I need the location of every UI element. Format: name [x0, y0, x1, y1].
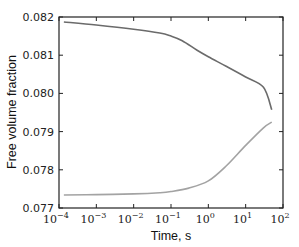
- x-tick-label: 102: [270, 211, 289, 226]
- x-tick-label: 10−2: [118, 211, 144, 226]
- y-tick-labels: 0.0770.0780.0790.0800.0810.082: [23, 11, 55, 215]
- ticks: [59, 17, 283, 208]
- x-tick-label: 100: [196, 211, 215, 226]
- y-tick-label: 0.081: [23, 49, 55, 62]
- series-line-upper: [64, 22, 272, 110]
- plot-area: [64, 22, 272, 195]
- y-tick-label: 0.082: [23, 11, 55, 24]
- x-tick-labels: 10−410−310−210−1100101102: [43, 211, 289, 226]
- series-line-lower: [64, 122, 272, 195]
- x-tick-label: 10−1: [155, 211, 181, 226]
- y-tick-label: 0.078: [23, 164, 55, 177]
- x-tick-label: 10−3: [80, 211, 106, 226]
- chart: 10−410−310−210−1100101102 0.0770.0780.07…: [0, 0, 299, 247]
- y-axis-label: Free volume fraction: [5, 55, 19, 169]
- x-axis-label: Time, s: [151, 229, 192, 243]
- y-tick-label: 0.079: [23, 126, 55, 139]
- x-tick-label: 101: [233, 211, 252, 226]
- y-tick-label: 0.077: [23, 202, 55, 215]
- y-tick-label: 0.080: [23, 87, 55, 100]
- plot-frame: [59, 17, 283, 208]
